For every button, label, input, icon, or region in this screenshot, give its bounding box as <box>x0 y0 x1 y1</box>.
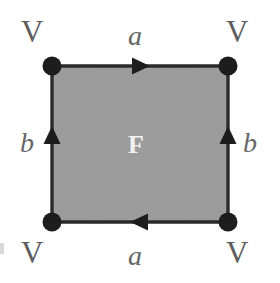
vertex-label-top-left: V <box>21 16 43 47</box>
edge-label-left-b: b <box>20 129 34 157</box>
edge-label-top-a: a <box>128 22 142 50</box>
face-label-f: F <box>128 132 144 158</box>
vertex-dot-bottom-left <box>43 213 62 232</box>
edge-label-right-b: b <box>243 129 257 157</box>
vertex-dot-top-left <box>43 57 62 76</box>
vertex-dot-top-right <box>219 57 238 76</box>
vertex-label-bottom-right: V <box>226 237 248 268</box>
identification-square-figure: V V V V a a b b F <box>0 0 280 283</box>
vertex-dot-bottom-right <box>219 213 238 232</box>
vertex-label-top-right: V <box>226 16 248 47</box>
edge-label-bottom-a: a <box>128 242 142 270</box>
vertex-label-bottom-left: V <box>21 237 43 268</box>
cropped-glyph-artifact <box>0 243 4 254</box>
